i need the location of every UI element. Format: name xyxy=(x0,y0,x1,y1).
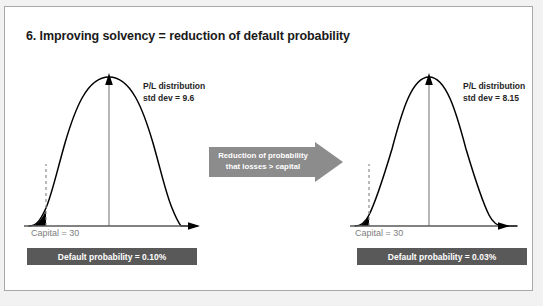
default-probability-bar-before: Default probability = 0.10% xyxy=(27,248,197,265)
capital-label-before: Capital = 30 xyxy=(31,228,79,238)
distribution-label-line1: P/L distribution xyxy=(463,81,525,93)
default-tail-area-after xyxy=(357,215,369,226)
transition-arrow: Reduction of probability that losses > c… xyxy=(209,142,343,182)
page-title: 6. Improving solvency = reduction of def… xyxy=(26,29,350,43)
distribution-chart-before: P/L distribution std dev = 9.6 Capital =… xyxy=(15,67,215,252)
default-probability-bar-after: Default probability = 0.03% xyxy=(357,248,527,265)
distribution-label-line2: std dev = 8.15 xyxy=(463,93,525,105)
x-axis-arrowhead-after xyxy=(498,222,510,230)
capital-label-after: Capital = 30 xyxy=(355,228,403,238)
vertical-axis-arrowhead-after xyxy=(425,73,433,85)
slide-frame: 6. Improving solvency = reduction of def… xyxy=(4,6,533,291)
arrow-polygon xyxy=(209,142,343,182)
distribution-label-line2: std dev = 9.6 xyxy=(143,93,205,105)
distribution-label-line1: P/L distribution xyxy=(143,81,205,93)
distribution-chart-after: P/L distribution std dev = 8.15 Capital … xyxy=(345,67,543,252)
distribution-label-before: P/L distribution std dev = 9.6 xyxy=(143,81,205,104)
x-axis-arrowhead-before xyxy=(188,222,200,230)
distribution-label-after: P/L distribution std dev = 8.15 xyxy=(463,81,525,104)
vertical-axis-arrowhead-before xyxy=(105,73,113,85)
transition-arrow-shape xyxy=(209,142,343,182)
